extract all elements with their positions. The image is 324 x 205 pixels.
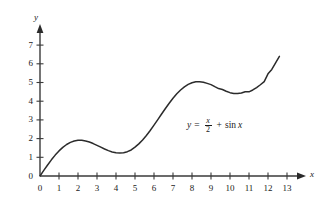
- x-tick-label: 11: [241, 184, 257, 193]
- x-axis-label: x: [310, 170, 314, 179]
- y-tick-label: 7: [21, 41, 33, 50]
- equation-fraction-denominator: 2: [205, 126, 211, 134]
- y-axis-label: y: [34, 13, 38, 22]
- x-tick-label: 0: [32, 184, 48, 193]
- function-curve: [40, 56, 279, 176]
- x-axis-arrow-icon: [297, 173, 306, 180]
- y-tick-label: 4: [21, 97, 33, 106]
- x-tick-label: 8: [184, 184, 200, 193]
- equation-fraction-numerator: x: [205, 117, 211, 125]
- equation-equals: =: [194, 121, 199, 131]
- y-tick-label: 1: [21, 153, 33, 162]
- equation-plus: +: [217, 121, 222, 131]
- x-tick-label: 2: [70, 184, 86, 193]
- plot-area: [0, 0, 324, 205]
- x-tick-label: 10: [222, 184, 238, 193]
- figure-canvas: 012345678910111213 01234567 x y y = x 2 …: [0, 0, 324, 205]
- equation-fraction: x 2: [205, 117, 212, 134]
- y-tick-label: 5: [21, 78, 33, 87]
- x-tick-label: 3: [89, 184, 105, 193]
- x-tick-label: 6: [146, 184, 162, 193]
- equation-y-symbol: y: [187, 121, 191, 131]
- equation-sin-label: sin: [225, 121, 236, 131]
- y-tick-label: 3: [21, 115, 33, 124]
- y-tick-label: 0: [21, 172, 33, 181]
- x-tick-label: 1: [51, 184, 67, 193]
- y-tick-label: 6: [21, 59, 33, 68]
- equation-annotation: y = x 2 + sin x: [187, 117, 242, 134]
- y-axis-arrow-icon: [37, 24, 44, 33]
- x-tick-label: 12: [260, 184, 276, 193]
- x-tick-label: 4: [108, 184, 124, 193]
- y-tick-label: 2: [21, 134, 33, 143]
- equation-sin-argument: x: [238, 121, 242, 131]
- x-tick-label: 5: [127, 184, 143, 193]
- x-tick-label: 9: [203, 184, 219, 193]
- x-tick-label: 13: [279, 184, 295, 193]
- x-tick-label: 7: [165, 184, 181, 193]
